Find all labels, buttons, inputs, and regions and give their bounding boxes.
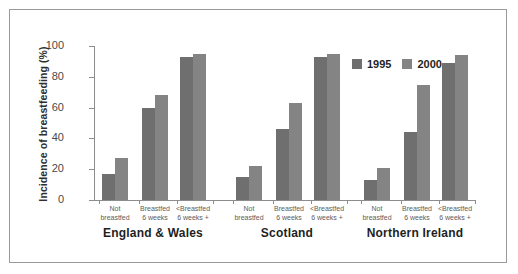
figure-frame: 020406080100 Incidence of breastfeeding …	[9, 9, 507, 263]
category-label-line2: 6 weeks +	[164, 214, 222, 223]
y-axis-title: Incidence of breastfeeding (%)	[37, 44, 49, 204]
bar-1995	[314, 57, 327, 200]
bar-2000	[249, 166, 262, 200]
legend-swatch-icon	[402, 59, 412, 69]
x-axis-tick	[233, 200, 234, 204]
bar-2000	[193, 54, 206, 200]
bar-1995	[142, 108, 155, 200]
chart-legend: 19952000	[352, 58, 442, 70]
x-axis-tick	[273, 200, 274, 204]
x-axis-tick	[401, 200, 402, 204]
group-label-england-wales: England & Wales	[90, 226, 216, 240]
y-axis-tick	[89, 200, 95, 201]
bar-1995	[102, 174, 115, 200]
legend-swatch-icon	[352, 59, 362, 69]
x-axis-tick	[361, 200, 362, 204]
bar-1995	[404, 132, 417, 200]
x-axis-line	[94, 200, 476, 201]
x-axis-tick	[213, 200, 214, 204]
legend-label: 2000	[417, 58, 441, 70]
bar-1995	[364, 180, 377, 200]
group-label-scotland: Scotland	[224, 226, 350, 240]
x-axis-category-label: <Breastfed6 weeks +	[164, 205, 222, 222]
category-label-line1: <Breastfed	[426, 205, 484, 214]
x-axis-category-label: <Breastfed6 weeks +	[426, 205, 484, 222]
bar-2000	[115, 158, 128, 200]
bar-2000	[377, 168, 390, 200]
legend-entry-1995: 1995	[352, 58, 391, 70]
bar-2000	[417, 85, 430, 201]
x-axis-tick	[177, 200, 178, 204]
x-axis-tick	[139, 200, 140, 204]
x-axis-tick	[99, 200, 100, 204]
bar-2000	[455, 55, 468, 200]
legend-entry-2000: 2000	[402, 58, 441, 70]
chart-plot-area: 020406080100 Incidence of breastfeeding …	[10, 10, 508, 264]
bar-1995	[276, 129, 289, 200]
bar-2000	[289, 103, 302, 200]
category-label-line1: <Breastfed	[164, 205, 222, 214]
category-label-line2: 6 weeks +	[426, 214, 484, 223]
bar-2000	[327, 54, 340, 200]
bar-1995	[180, 57, 193, 200]
legend-label: 1995	[367, 58, 391, 70]
x-axis-tick	[475, 200, 476, 204]
bar-1995	[236, 177, 249, 200]
x-axis-tick	[311, 200, 312, 204]
x-axis-tick	[439, 200, 440, 204]
bar-1995	[442, 63, 455, 200]
bar-2000	[155, 95, 168, 200]
x-axis-tick	[347, 200, 348, 204]
group-label-northern-ireland: Northern Ireland	[352, 226, 478, 240]
